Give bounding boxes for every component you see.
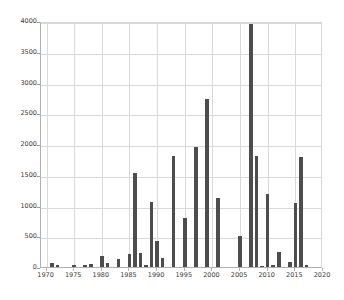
bar: [128, 254, 132, 267]
bar: [72, 265, 76, 267]
bar: [172, 156, 176, 267]
gridline-vertical: [129, 23, 130, 267]
gridline-horizontal: [41, 23, 321, 24]
y-axis-tick-label: 1500: [20, 172, 37, 179]
gridline-horizontal: [41, 177, 321, 178]
x-axis-tick-label: 1985: [120, 271, 137, 279]
bar: [150, 202, 154, 267]
bar: [56, 265, 60, 267]
bar: [238, 236, 242, 267]
bar: [288, 262, 292, 267]
gridline-vertical: [74, 23, 75, 267]
y-axis-tick-mark: [37, 268, 40, 269]
bar: [161, 258, 165, 267]
bar: [100, 256, 104, 267]
x-axis-tick-mark: [267, 268, 268, 271]
x-axis-tick-mark: [294, 268, 295, 271]
x-axis-tick-label: 1975: [65, 271, 82, 279]
x-axis-tick-label: 1995: [175, 271, 192, 279]
bar: [299, 157, 303, 267]
x-axis-tick-label: 2005: [231, 271, 248, 279]
x-axis-tick-mark: [128, 268, 129, 271]
y-axis-tick-label: 2500: [20, 110, 37, 117]
bar: [216, 198, 220, 267]
x-axis-tick-label: 2020: [314, 271, 331, 279]
y-axis-tick-label: 3500: [20, 49, 37, 56]
bar: [271, 265, 275, 267]
gridline-vertical: [212, 23, 213, 267]
x-axis-tick-label: 2010: [258, 271, 275, 279]
gridline-horizontal: [41, 208, 321, 209]
bar: [183, 218, 187, 267]
y-axis-tick-label: 3000: [20, 80, 37, 87]
x-axis-tick-mark: [322, 268, 323, 271]
x-axis-tick-label: 1980: [93, 271, 110, 279]
x-axis-tick-mark: [46, 268, 47, 271]
y-axis-tick-label: 4000: [20, 18, 37, 25]
bar: [305, 265, 309, 267]
x-axis-tick-label: 1990: [148, 271, 165, 279]
gridline-horizontal: [41, 54, 321, 55]
gridline-vertical: [240, 23, 241, 267]
gridline-vertical: [102, 23, 103, 267]
bar: [194, 147, 198, 267]
plot-area: [40, 22, 322, 268]
bar: [83, 265, 87, 267]
bar: [139, 253, 143, 267]
x-axis-tick-mark: [156, 268, 157, 271]
gridline-horizontal: [41, 146, 321, 147]
bar: [155, 241, 159, 267]
x-axis-tick-mark: [239, 268, 240, 271]
x-axis-tick-mark: [73, 268, 74, 271]
x-axis-tick-mark: [211, 268, 212, 271]
bar: [106, 263, 110, 267]
x-axis-tick-mark: [184, 268, 185, 271]
bar: [260, 266, 264, 267]
gridline-horizontal: [41, 238, 321, 239]
gridline-vertical: [47, 23, 48, 267]
y-axis-tick-label: 500: [25, 233, 37, 240]
bar: [277, 252, 281, 267]
y-axis-tick-label: 1000: [20, 203, 37, 210]
y-axis-tick-label: 2000: [20, 141, 37, 148]
gridline-horizontal: [41, 85, 321, 86]
bar: [50, 263, 54, 267]
x-axis-tick-label: 2000: [203, 271, 220, 279]
bar: [117, 259, 121, 267]
y-axis: 05001000150020002500300035004000: [0, 0, 37, 300]
bar: [205, 99, 209, 268]
x-axis-tick-mark: [101, 268, 102, 271]
bar: [249, 24, 253, 267]
bar: [144, 265, 148, 267]
bar: [266, 194, 270, 267]
bar: [133, 173, 137, 267]
x-axis-tick-label: 1970: [37, 271, 54, 279]
bar: [89, 264, 93, 267]
gridline-vertical: [157, 23, 158, 267]
bar: [294, 203, 298, 267]
bar: [255, 156, 259, 267]
gridline-horizontal: [41, 115, 321, 116]
bar-chart-figure: 05001000150020002500300035004000 1970197…: [0, 0, 344, 300]
x-axis-tick-label: 2015: [286, 271, 303, 279]
